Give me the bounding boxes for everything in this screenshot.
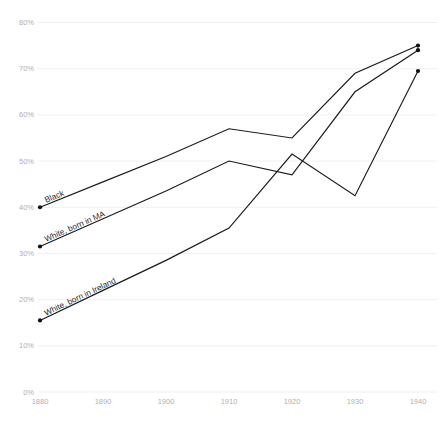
x-axis-tick-label: 1920: [284, 397, 301, 406]
chart-container: 0%10%20%30%40%50%60%70%80% 1880189019001…: [0, 0, 447, 426]
line-chart: 0%10%20%30%40%50%60%70%80% 1880189019001…: [0, 0, 447, 426]
series-endpoint-dot: [416, 48, 420, 52]
x-axis-tick-labels: 1880189019001910192019301940: [32, 397, 427, 406]
y-axis-tick-label: 40%: [19, 203, 34, 212]
series-endpoint-dot: [416, 69, 420, 73]
x-axis-tick-label: 1890: [95, 397, 112, 406]
series-lines: [40, 46, 418, 321]
y-axis-tick-label: 80%: [19, 18, 34, 27]
x-axis-tick-label: 1940: [410, 397, 427, 406]
y-axis-tick-labels: 0%10%20%30%40%50%60%70%80%: [19, 18, 34, 397]
y-axis-tick-label: 0%: [23, 388, 34, 397]
series-endpoint-dots: [38, 43, 420, 322]
x-axis-tick-label: 1900: [158, 397, 175, 406]
y-axis-tick-label: 70%: [19, 64, 34, 73]
gridlines: [38, 23, 437, 393]
series-endpoint-dot: [38, 205, 42, 209]
series-label: White, born in MA: [43, 209, 107, 244]
series-endpoint-dot: [38, 318, 42, 322]
series-endpoint-dot: [416, 43, 420, 47]
series-endpoint-dot: [38, 244, 42, 248]
x-axis-tick-label: 1930: [347, 397, 364, 406]
y-axis-tick-label: 50%: [19, 157, 34, 166]
x-axis-tick-label: 1880: [32, 397, 49, 406]
y-axis-tick-label: 10%: [19, 341, 34, 350]
y-axis-tick-label: 60%: [19, 110, 34, 119]
series-label: Black: [43, 188, 66, 204]
y-axis-tick-label: 30%: [19, 249, 34, 258]
series-label: White, born in Ireland: [43, 276, 118, 318]
y-axis-tick-label: 20%: [19, 295, 34, 304]
x-axis-tick-label: 1910: [221, 397, 238, 406]
